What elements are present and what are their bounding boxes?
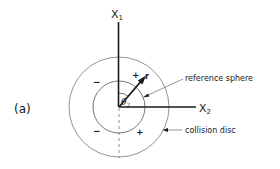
sign-lower-left: − [93,126,101,136]
reference-sphere-label: reference sphere [185,74,253,83]
diagram-canvas: X1 X2 θ2 r − + − + reference sphere coll… [0,0,280,169]
sign-lower-right: + [136,127,144,137]
reference-sphere-leader-arrowhead [143,94,149,98]
r-vector-label: r [145,72,149,81]
sign-upper-right: + [132,70,140,80]
collision-disc-label: collision disc [185,126,236,135]
x1-axis-label: X1 [111,8,123,22]
reference-sphere-leader [146,79,183,96]
sign-upper-left: − [93,77,101,87]
theta-label: θ2 [121,97,130,108]
panel-label: (a) [14,102,31,116]
x2-axis-label: X2 [199,102,211,116]
theta-angle-arc [119,93,128,96]
collision-disc-leader-arrowhead [163,128,169,132]
